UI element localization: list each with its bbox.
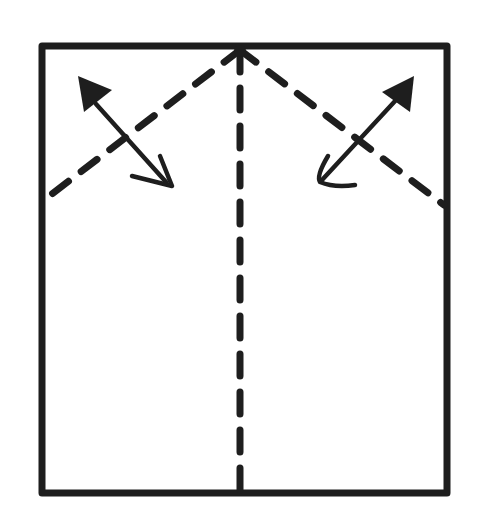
right-diagonal-valley-fold bbox=[240, 50, 444, 205]
left-fold-and-unfold-arrow-icon bbox=[78, 76, 172, 186]
top-center-vertex bbox=[234, 45, 246, 57]
origami-diagram bbox=[0, 0, 483, 526]
